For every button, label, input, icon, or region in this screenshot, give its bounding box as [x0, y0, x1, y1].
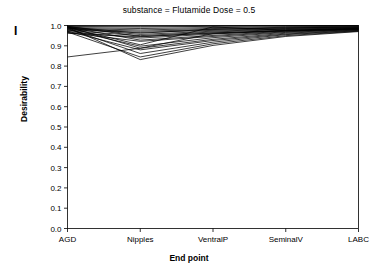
x-tick-label: AGD — [59, 235, 77, 244]
x-tick-label: Nipples — [127, 235, 154, 244]
y-axis-ticks: 0.00.10.20.30.40.50.60.70.80.91.0 — [50, 22, 67, 234]
y-tick-label: 1.0 — [50, 22, 62, 31]
x-tick-label: SeminalV — [269, 235, 304, 244]
y-tick-label: 0.3 — [50, 164, 62, 173]
chart-panel: substance = Flutamide Dose = 0.5 I Desir… — [0, 0, 378, 280]
y-tick-label: 0.8 — [50, 62, 62, 71]
y-tick-label: 0.2 — [50, 184, 62, 193]
x-tick-label: VentralP — [198, 235, 228, 244]
y-tick-label: 0.4 — [50, 143, 62, 152]
x-axis-ticks: AGDNipplesVentralPSeminalVLABC — [59, 229, 369, 244]
y-tick-label: 0.5 — [50, 123, 62, 132]
y-tick-label: 0.9 — [50, 42, 62, 51]
y-tick-label: 0.1 — [50, 204, 62, 213]
y-tick-label: 0.7 — [50, 82, 62, 91]
y-tick-label: 0.0 — [50, 225, 62, 234]
plot-frame — [68, 26, 359, 229]
x-tick-label: LABC — [348, 235, 369, 244]
y-tick-label: 0.6 — [50, 103, 62, 112]
parallel-coordinates-plot: 0.00.10.20.30.40.50.60.70.80.91.0 AGDNip… — [0, 0, 378, 280]
